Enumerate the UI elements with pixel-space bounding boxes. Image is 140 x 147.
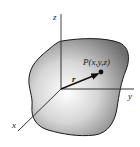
body-shape xyxy=(29,39,129,136)
y-axis-label: y xyxy=(127,91,132,101)
z-axis-label: z xyxy=(52,12,57,22)
point-p xyxy=(99,70,104,75)
position-vector-diagram: z y x P(x,y,z) r xyxy=(0,0,140,147)
vector-label: r xyxy=(72,74,76,84)
point-label: P(x,y,z) xyxy=(82,57,110,67)
x-axis-label: x xyxy=(11,120,16,130)
